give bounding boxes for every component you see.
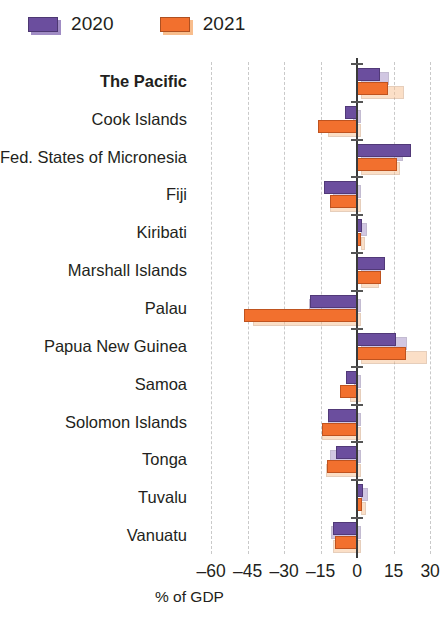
bar-2020-palau [310, 295, 357, 308]
x-axis-title: % of GDP [0, 588, 439, 606]
legend-label-2021: 2021 [203, 13, 246, 35]
plot-area: The PacificCook IslandsFed. States of Mi… [199, 62, 435, 554]
row-tick [351, 176, 363, 178]
category-label: The Pacific [0, 63, 187, 99]
row-tick [351, 101, 363, 103]
bar-2021-cook-islands [318, 120, 357, 133]
chart-row: Solomon Islands [199, 404, 435, 440]
chart-row: Vanuatu [199, 517, 435, 553]
row-tick [351, 252, 363, 254]
category-label: Papua New Guinea [0, 328, 187, 364]
category-label: Vanuatu [0, 517, 187, 553]
category-label: Cook Islands [0, 101, 187, 137]
x-axis-title-text: % of GDP [155, 588, 224, 606]
chart-row: Tuvalu [199, 479, 435, 515]
legend-label-2020: 2020 [71, 13, 114, 35]
row-tick [351, 63, 363, 65]
category-label: Tonga [0, 441, 187, 477]
bar-2020-fed-states-of-micronesia [357, 144, 411, 157]
bar-shadow [361, 223, 367, 236]
row-tick [351, 139, 363, 141]
bar-2021-samoa [340, 385, 357, 398]
x-tick-label: 15 [384, 561, 403, 582]
bar-2020-marshall-islands [357, 257, 385, 270]
chart-row: Papua New Guinea [199, 328, 435, 364]
category-label: Fed. States of Micronesia [0, 139, 187, 175]
chart-row: Kiribati [199, 214, 435, 250]
category-label: Samoa [0, 366, 187, 402]
x-axis-ticks: –60–45–30–1501530 [0, 561, 439, 585]
bar-2020-tonga [336, 446, 357, 459]
bar-2021-fed-states-of-micronesia [357, 158, 397, 171]
legend-swatch-2021 [160, 17, 190, 32]
bar-2021-vanuatu [335, 536, 357, 549]
x-tick-label: –45 [233, 561, 262, 582]
legend-item-2020: 2020 [28, 13, 114, 35]
bar-2020-fiji [324, 181, 357, 194]
x-tick-label: –60 [197, 561, 226, 582]
x-tick-label: 0 [352, 561, 362, 582]
row-tick [351, 366, 363, 368]
bar-shadow [361, 237, 365, 250]
x-tick-label: –30 [270, 561, 299, 582]
chart-row: Tonga [199, 441, 435, 477]
bar-chart: The PacificCook IslandsFed. States of Mi… [0, 56, 439, 561]
legend-item-2021: 2021 [160, 13, 246, 35]
category-label: Marshall Islands [0, 252, 187, 288]
row-tick [351, 517, 363, 519]
category-label: Palau [0, 290, 187, 326]
bar-2020-solomon-islands [328, 409, 357, 422]
zero-axis-line [356, 58, 358, 558]
legend-swatch-2020 [28, 17, 58, 32]
chart-legend: 2020 2021 [28, 12, 245, 36]
x-tick-label: 30 [420, 561, 439, 582]
row-tick [351, 328, 363, 330]
chart-row: Samoa [199, 366, 435, 402]
row-tick [351, 479, 363, 481]
bar-2021-papua-new-guinea [357, 347, 406, 360]
bar-2021-the-pacific [357, 82, 387, 95]
bar-2021-tonga [327, 460, 357, 473]
chart-row: Palau [199, 290, 435, 326]
bar-2021-solomon-islands [322, 423, 357, 436]
bar-2020-the-pacific [357, 68, 380, 81]
row-tick [351, 214, 363, 216]
x-tick-label: –15 [306, 561, 335, 582]
category-label: Tuvalu [0, 479, 187, 515]
bar-2021-palau [244, 309, 357, 322]
bar-2020-vanuatu [333, 522, 357, 535]
bar-2020-papua-new-guinea [357, 333, 396, 346]
chart-row: Cook Islands [199, 101, 435, 137]
row-tick [351, 290, 363, 292]
chart-row: Marshall Islands [199, 252, 435, 288]
row-tick [351, 441, 363, 443]
bar-2021-marshall-islands [357, 271, 381, 284]
category-label: Kiribati [0, 214, 187, 250]
chart-row: Fed. States of Micronesia [199, 139, 435, 175]
category-label: Fiji [0, 176, 187, 212]
bar-2021-fiji [330, 195, 357, 208]
row-tick [351, 404, 363, 406]
chart-row: Fiji [199, 176, 435, 212]
chart-row: The Pacific [199, 63, 435, 99]
category-label: Solomon Islands [0, 404, 187, 440]
